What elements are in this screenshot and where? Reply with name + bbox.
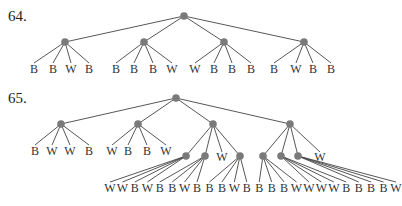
tree-edge bbox=[259, 156, 263, 182]
tree-edge bbox=[65, 42, 89, 63]
leaf-label: W bbox=[189, 62, 201, 76]
tree-node bbox=[140, 38, 148, 46]
tree-node bbox=[294, 152, 302, 160]
tree-edge bbox=[281, 156, 309, 182]
tree-node bbox=[236, 152, 244, 160]
tree-edge bbox=[263, 156, 284, 182]
leaf-label: B bbox=[255, 181, 263, 195]
tree-edge bbox=[65, 16, 184, 42]
leaf-label: B bbox=[247, 62, 255, 76]
leaf-label: B bbox=[193, 181, 201, 195]
leaf-label: W bbox=[117, 181, 129, 195]
leaf-label: B bbox=[210, 62, 218, 76]
tree-node bbox=[134, 120, 142, 128]
leaf-label: B bbox=[327, 62, 335, 76]
leaf-label: W bbox=[160, 144, 172, 158]
leaf-label: B bbox=[228, 62, 236, 76]
tree-edge bbox=[184, 16, 304, 42]
leaf-label: W bbox=[390, 181, 402, 195]
leaf-label: W bbox=[216, 150, 228, 164]
tree-edge bbox=[35, 124, 61, 145]
tree-edge bbox=[185, 156, 205, 182]
leaf-label: B bbox=[131, 181, 139, 195]
leaf-label: W bbox=[303, 181, 315, 195]
tree-node bbox=[61, 38, 69, 46]
leaf-label: B bbox=[85, 62, 93, 76]
leaf-label: B bbox=[205, 181, 213, 195]
tree-edge bbox=[274, 42, 304, 63]
leaf-label: W bbox=[142, 181, 154, 195]
tree-node bbox=[201, 152, 209, 160]
tree-edge bbox=[290, 124, 298, 156]
leaf-label: B bbox=[149, 62, 157, 76]
leaf-label: W bbox=[46, 144, 58, 158]
leaf-label: W bbox=[290, 62, 302, 76]
leaf-label: W bbox=[166, 62, 178, 76]
tree-node bbox=[259, 152, 267, 160]
tree-edge bbox=[195, 42, 224, 63]
tree-node bbox=[180, 12, 188, 20]
leaf-label: B bbox=[30, 62, 38, 76]
leaf-label: W bbox=[65, 62, 77, 76]
leaf-label: W bbox=[291, 181, 303, 195]
tree-edge bbox=[144, 16, 184, 42]
tree-node bbox=[182, 152, 190, 160]
tree-edge bbox=[213, 124, 222, 152]
leaf-label: B bbox=[270, 62, 278, 76]
leaf-label: B bbox=[309, 62, 317, 76]
leaf-label: B bbox=[367, 181, 375, 195]
leaf-label: W bbox=[316, 181, 328, 195]
leaf-label: B bbox=[112, 62, 120, 76]
leaf-label: B bbox=[130, 62, 138, 76]
leaf-label: B bbox=[355, 181, 363, 195]
tree-edge bbox=[34, 42, 65, 63]
tree-edge bbox=[112, 124, 138, 145]
tree-edge bbox=[176, 98, 290, 124]
tree-node bbox=[57, 120, 65, 128]
tree-edge bbox=[135, 156, 186, 182]
leaf-label: B bbox=[168, 181, 176, 195]
tree-edge bbox=[61, 98, 176, 124]
tree-edge bbox=[110, 156, 186, 182]
tree-edge bbox=[290, 124, 320, 152]
leaf-label: B bbox=[124, 144, 132, 158]
tree-edge bbox=[240, 156, 247, 182]
leaf-label: B bbox=[218, 181, 226, 195]
leaf-label: W bbox=[179, 181, 191, 195]
leaf-label: B bbox=[31, 144, 39, 158]
leaf-label: B bbox=[243, 181, 251, 195]
tree-node bbox=[277, 152, 285, 160]
tree-node bbox=[209, 120, 217, 128]
tree-node bbox=[172, 94, 180, 102]
leaf-label: W bbox=[104, 181, 116, 195]
leaf-label: B bbox=[268, 181, 276, 195]
leaf-label: B bbox=[342, 181, 350, 195]
probability-tree-diagrams: BBWBBBBWWBBBBWBBBWWBWBBWWWWWBWBBWBBBWBBB… bbox=[0, 0, 402, 206]
tree-edge bbox=[298, 156, 384, 182]
tree-node bbox=[220, 38, 228, 46]
tree-node bbox=[300, 38, 308, 46]
leaf-label: B bbox=[49, 62, 57, 76]
leaf-label: W bbox=[106, 144, 118, 158]
tree-edge bbox=[298, 156, 371, 182]
tree-node bbox=[286, 120, 294, 128]
leaf-label: B bbox=[380, 181, 388, 195]
leaf-label: W bbox=[229, 181, 241, 195]
leaf-label: B bbox=[156, 181, 164, 195]
leaf-label: B bbox=[280, 181, 288, 195]
leaf-label: B bbox=[85, 144, 93, 158]
leaf-label: W bbox=[328, 181, 340, 195]
leaf-label: B bbox=[143, 144, 151, 158]
leaf-label: W bbox=[64, 144, 76, 158]
tree-edge bbox=[116, 42, 144, 63]
